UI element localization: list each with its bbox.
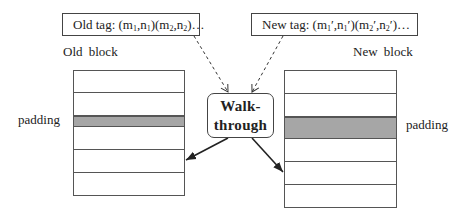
new-block-row	[285, 162, 396, 185]
new-tag-dashed-arrow	[252, 36, 283, 92]
old-block-row	[74, 127, 184, 150]
new-padding-label: padding	[406, 117, 448, 133]
old-tag-prefix: Old tag:	[73, 17, 119, 32]
new-block-label: New block	[353, 44, 413, 60]
old-block-row	[74, 93, 184, 116]
new-block	[284, 70, 397, 208]
old-tag-dashed-arrow	[194, 36, 228, 92]
walkthrough-line2: through	[208, 116, 273, 135]
walkthrough-line1: Walk-	[208, 97, 273, 116]
diagram-canvas: Old tag: (m1,n1)(m2,n2)… New tag: (m1′,n…	[0, 0, 465, 216]
old-block-padding-row	[74, 116, 184, 127]
new-block-row	[285, 94, 396, 117]
old-block-label: Old block	[63, 44, 118, 60]
new-block-padding-row	[285, 117, 396, 139]
new-tag-prefix: New tag:	[262, 17, 313, 32]
old-padding-label: padding	[18, 112, 60, 128]
walkthrough-box: Walk- through	[207, 93, 274, 138]
old-block-row	[74, 173, 184, 195]
new-tag-box: New tag: (m1′,n1′)(m2′,n2′)…	[251, 13, 418, 36]
old-block	[73, 70, 185, 196]
walk-to-old-arrow	[186, 138, 228, 160]
new-block-row	[285, 139, 396, 162]
new-block-row	[285, 185, 396, 207]
old-block-row	[74, 71, 184, 93]
old-block-row	[74, 150, 184, 173]
walk-to-new-arrow	[252, 138, 283, 172]
new-block-row	[285, 71, 396, 94]
old-tag-box: Old tag: (m1,n1)(m2,n2)…	[62, 13, 200, 36]
